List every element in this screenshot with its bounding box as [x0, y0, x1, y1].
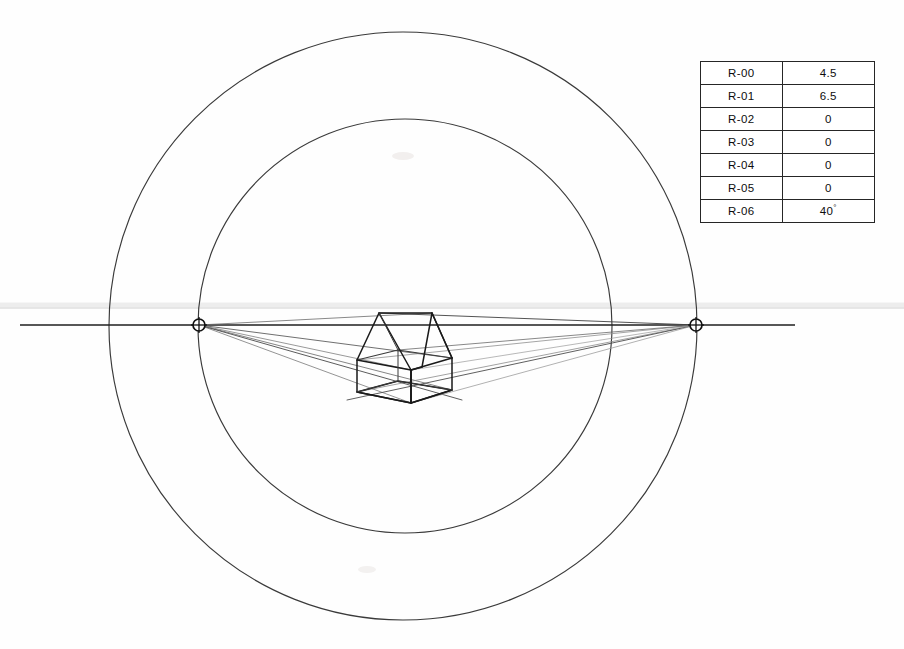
table-row: R-01 6.5	[701, 85, 875, 108]
house-base-front	[357, 381, 452, 403]
table-row: R-05 0	[701, 177, 875, 200]
right-vp-ray-bundle	[347, 313, 696, 403]
left-vp-ray	[199, 325, 411, 370]
inner-circle	[198, 119, 612, 533]
param-value[interactable]: 0	[782, 154, 874, 177]
table-row: R-00 4.5	[701, 62, 875, 85]
param-key: R-01	[701, 85, 783, 108]
param-value[interactable]: 0	[782, 108, 874, 131]
table-row: R-02 0	[701, 108, 875, 131]
table-row: R-06 40°	[701, 200, 875, 223]
param-value-text: 0	[825, 159, 832, 171]
param-key: R-00	[701, 62, 783, 85]
table-row: R-03 0	[701, 131, 875, 154]
left-vp-ray	[199, 313, 432, 325]
right-vp-ray	[411, 325, 696, 370]
param-value[interactable]: 0	[782, 131, 874, 154]
right-vp-ray	[357, 325, 696, 360]
drawing-canvas: R-00 4.5 R-01 6.5 R-02 0 R-03 0 R-04 0 R…	[0, 0, 904, 649]
param-value[interactable]: 0	[782, 177, 874, 200]
param-value-text: 0	[825, 136, 832, 148]
param-value[interactable]: 6.5	[782, 85, 874, 108]
left-vanishing-point[interactable]	[191, 317, 207, 333]
table-row: R-04 0	[701, 154, 875, 177]
param-key: R-03	[701, 131, 783, 154]
param-value-text: 40	[820, 205, 834, 217]
param-unit: °	[833, 203, 837, 212]
param-value[interactable]: 4.5	[782, 62, 874, 85]
param-value[interactable]: 40°	[782, 200, 874, 223]
left-vp-ray	[199, 325, 452, 358]
param-key: R-06	[701, 200, 783, 223]
param-key: R-04	[701, 154, 783, 177]
param-value-text: 4.5	[820, 67, 837, 79]
param-key: R-05	[701, 177, 783, 200]
param-value-text: 6.5	[820, 90, 837, 102]
param-value-text: 0	[825, 182, 832, 194]
house-roof-back-edge	[379, 313, 398, 350]
parameter-table: R-00 4.5 R-01 6.5 R-02 0 R-03 0 R-04 0 R…	[700, 61, 875, 223]
left-vp-ray	[199, 325, 452, 390]
param-key: R-02	[701, 108, 783, 131]
param-value-text: 0	[825, 113, 832, 125]
right-vp-ray	[347, 325, 696, 400]
left-vp-ray-bundle	[199, 313, 462, 403]
parameter-table-body: R-00 4.5 R-01 6.5 R-02 0 R-03 0 R-04 0 R…	[701, 62, 875, 223]
right-vp-ray	[379, 313, 696, 325]
right-vanishing-point[interactable]	[688, 317, 704, 333]
